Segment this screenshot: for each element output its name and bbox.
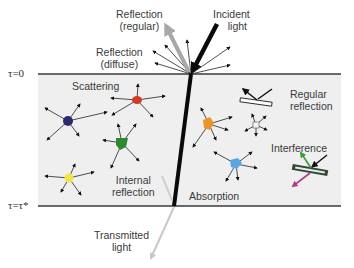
label-line: reflection	[290, 100, 333, 112]
label-line: (diffuse)	[96, 58, 143, 70]
label-interference: Interference	[271, 142, 327, 154]
label-incident-light: Incident light	[213, 8, 250, 32]
label-tau-star: τ=τ*	[8, 199, 29, 211]
label-line: light	[213, 20, 250, 32]
label-reflection-regular: Reflection (regular)	[116, 8, 163, 32]
label-line: Internal	[112, 174, 155, 186]
label-line: Incident	[213, 8, 250, 20]
label-line: Transmitted	[94, 229, 149, 241]
label-tau-zero: τ=0	[8, 67, 24, 79]
label-line: Regular	[290, 88, 333, 100]
label-line: (regular)	[116, 20, 163, 32]
regular-reflection-beam	[166, 26, 189, 72]
label-transmitted-light: Transmitted light	[94, 229, 149, 253]
label-absorption: Absorption	[189, 190, 239, 202]
transmitted-light-beam	[151, 207, 174, 258]
label-scattering: Scattering	[72, 80, 119, 92]
label-line: reflection	[112, 186, 155, 198]
label-line: light	[94, 241, 149, 253]
label-line: Reflection	[116, 8, 163, 20]
label-reflection-diffuse: Reflection (diffuse)	[96, 46, 143, 70]
label-regular-reflection: Regular reflection	[290, 88, 333, 112]
light-interaction-diagram	[0, 0, 354, 268]
label-internal-reflection: Internal reflection	[112, 174, 155, 198]
label-line: Reflection	[96, 46, 143, 58]
